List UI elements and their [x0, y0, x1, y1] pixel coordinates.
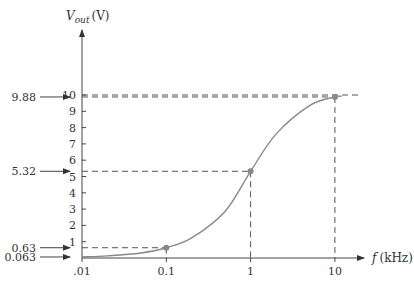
response-curve — [82, 96, 342, 257]
x-axis-title: f(kHz) — [371, 251, 413, 265]
annotation-label: 5.32 — [12, 165, 37, 178]
annotation-label: 9.88 — [12, 91, 37, 104]
annotation-label: 0.063 — [5, 251, 37, 264]
annotations: 9.885.320.630.063 — [5, 91, 71, 264]
chart: Vout(V) f(kHz) 12345678910 .010.1110 9.8… — [0, 0, 414, 284]
y-tick-label: 4 — [69, 187, 76, 200]
x-tick-label: 0.1 — [158, 265, 176, 278]
y-axis-title: Vout(V) — [66, 9, 110, 25]
y-tick-label: 5 — [69, 171, 76, 184]
guide-lines — [82, 95, 358, 258]
x-ticks: .010.1110 — [73, 258, 342, 278]
data-point — [332, 94, 338, 100]
y-tick-label: 2 — [69, 219, 76, 232]
x-tick-label: 1 — [247, 265, 254, 278]
y-tick-label: 1 — [69, 236, 76, 249]
y-tick-label: 9 — [69, 105, 76, 118]
y-tick-label: 6 — [69, 154, 76, 167]
y-tick-label: 7 — [69, 138, 76, 151]
x-tick-label: .01 — [73, 265, 91, 278]
y-tick-label: 8 — [69, 122, 76, 135]
data-point — [248, 168, 254, 174]
data-point — [163, 245, 169, 251]
y-tick-label: 10 — [62, 89, 76, 102]
x-tick-label: 10 — [328, 265, 342, 278]
y-tick-label: 3 — [69, 203, 76, 216]
